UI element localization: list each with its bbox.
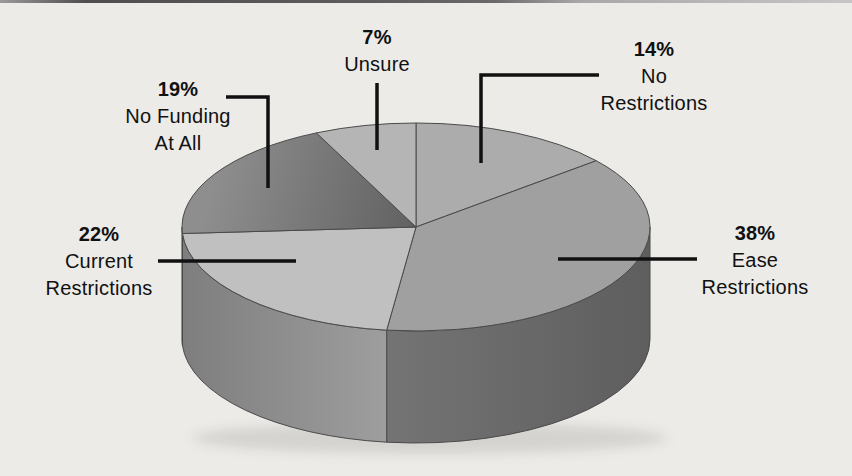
- pie-chart-figure: 7% Unsure 14% No Restrictions 38% Ease R…: [0, 0, 852, 476]
- label-ease-restrictions-text-1: Ease: [702, 247, 809, 274]
- label-current-restrictions-text-2: Restrictions: [46, 275, 153, 302]
- label-ease-restrictions: 38% Ease Restrictions: [702, 220, 809, 301]
- label-ease-restrictions-pct: 38%: [702, 220, 809, 247]
- label-current-restrictions-text-1: Current: [46, 248, 153, 275]
- label-no-restrictions-text-2: Restrictions: [601, 90, 708, 117]
- label-current-restrictions: 22% Current Restrictions: [46, 221, 153, 302]
- label-current-restrictions-pct: 22%: [46, 221, 153, 248]
- label-no-restrictions: 14% No Restrictions: [601, 36, 708, 117]
- label-ease-restrictions-text-2: Restrictions: [702, 274, 809, 301]
- pie-slices-group: [182, 123, 650, 443]
- label-no-funding-text-2: At All: [125, 130, 230, 157]
- label-no-funding-pct: 19%: [125, 76, 230, 103]
- label-no-restrictions-pct: 14%: [601, 36, 708, 63]
- label-unsure: 7% Unsure: [344, 24, 410, 78]
- label-no-funding-text-1: No Funding: [125, 103, 230, 130]
- label-no-restrictions-text-1: No: [601, 63, 708, 90]
- label-unsure-text: Unsure: [344, 51, 410, 78]
- label-no-funding: 19% No Funding At All: [125, 76, 230, 157]
- label-unsure-pct: 7%: [344, 24, 410, 51]
